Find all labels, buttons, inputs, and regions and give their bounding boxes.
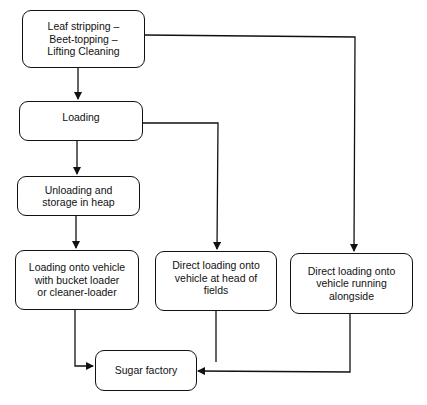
node-sugar-factory-label: Sugar factory (115, 364, 177, 377)
node-unloading-line-1: Unloading and (42, 184, 114, 197)
node-head-of-fields-line-2: vehicle at head of (172, 272, 260, 285)
node-loading: Loading (19, 101, 143, 141)
node-alongside: Direct loading onto vehicle running alon… (290, 253, 413, 314)
node-alongside-line-2: vehicle running (308, 277, 396, 290)
node-bucket-loader-line-1: Loading onto vehicle (29, 261, 125, 274)
arrow-alongside-to-factory (198, 314, 350, 372)
node-bucket-loader: Loading onto vehicle with bucket loader … (15, 250, 139, 310)
node-harvest: Leaf stripping – Beet-topping – Lifting … (22, 10, 145, 68)
node-harvest-line-2: Beet-topping – (47, 33, 119, 46)
node-alongside-line-1: Direct loading onto (308, 265, 396, 278)
node-unloading-line-2: storage in heap (42, 196, 114, 209)
node-bucket-loader-line-3: or cleaner-loader (29, 286, 125, 299)
node-unloading: Unloading and storage in heap (17, 176, 140, 216)
node-sugar-factory: Sugar factory (95, 350, 197, 391)
node-alongside-line-3: alongside (308, 290, 396, 303)
arrow-harvest-to-alongside (145, 35, 355, 251)
node-head-of-fields: Direct loading onto vehicle at head of f… (155, 251, 277, 311)
node-bucket-loader-line-2: with bucket loader (29, 274, 125, 287)
node-head-of-fields-line-3: fields (172, 284, 260, 297)
arrow-loading-to-head-of-fields (143, 123, 218, 249)
node-harvest-line-3: Lifting Cleaning (47, 45, 119, 58)
node-harvest-line-1: Leaf stripping – (47, 20, 119, 33)
node-head-of-fields-line-1: Direct loading onto (172, 259, 260, 272)
arrow-bucket-loader-to-factory (75, 310, 93, 366)
node-loading-label: Loading (62, 111, 99, 124)
